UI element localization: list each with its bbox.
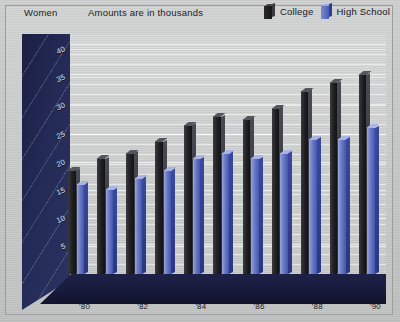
bar — [309, 139, 317, 274]
bar — [68, 170, 76, 274]
bar-group — [330, 34, 359, 274]
bar-group — [155, 34, 184, 274]
x-axis-tick-label: '86 — [254, 302, 265, 311]
bar-group — [97, 34, 126, 274]
bar — [367, 128, 375, 274]
bar — [213, 117, 221, 274]
bar-series-container — [66, 34, 386, 302]
x-axis-tick-labels: '80'82'84'86'88'90 — [66, 302, 386, 318]
bar-group — [184, 34, 213, 274]
chart-screenshot: Women Amounts are in thousands College H… — [0, 0, 400, 322]
bar — [155, 142, 163, 274]
bar — [280, 153, 288, 274]
bar — [193, 159, 201, 274]
x-axis-tick-label: '82 — [137, 302, 148, 311]
legend-label-high-school: High School — [337, 6, 390, 17]
x-axis-tick-label: '80 — [79, 302, 90, 311]
bar — [164, 170, 172, 274]
legend-item-high-school[interactable]: High School — [321, 4, 390, 19]
y-axis-wall: 510152025303540 — [22, 34, 70, 310]
bar — [106, 190, 114, 274]
book-swatch-blue-icon — [321, 4, 332, 19]
bar-group — [126, 34, 155, 274]
chart-legend: College High School — [264, 4, 390, 19]
bar-group — [359, 34, 388, 274]
units-note: Amounts are in thousands — [88, 7, 203, 18]
bar-group — [213, 34, 242, 274]
bar-group — [68, 34, 97, 274]
plot-area: 510152025303540 '80'82'84'86'88'90 — [22, 34, 386, 312]
bar — [330, 83, 338, 274]
bar — [184, 125, 192, 274]
bar-group — [301, 34, 330, 274]
bar — [77, 184, 85, 274]
bar — [301, 91, 309, 274]
bar — [251, 159, 259, 274]
bar — [243, 119, 251, 274]
bar-group — [243, 34, 272, 274]
legend-label-college: College — [280, 6, 314, 17]
bar — [97, 159, 105, 274]
x-axis-tick-label: '84 — [195, 302, 206, 311]
category-label: Women — [24, 7, 58, 18]
bar — [359, 75, 367, 274]
bar — [135, 178, 143, 274]
bar — [338, 139, 346, 274]
bar — [126, 153, 134, 274]
bar-group — [272, 34, 301, 274]
x-axis-tick-label: '88 — [312, 302, 323, 311]
legend-item-college[interactable]: College — [264, 4, 314, 19]
bar — [222, 153, 230, 274]
bar — [272, 108, 280, 274]
x-axis-tick-label: '90 — [370, 302, 381, 311]
book-swatch-dark-icon — [264, 4, 275, 19]
